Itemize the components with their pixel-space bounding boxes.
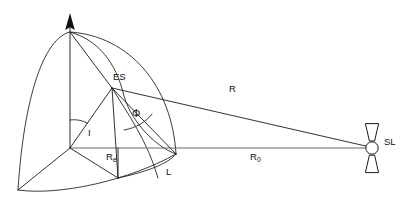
inclination-angle-arc	[70, 120, 88, 123]
satellite-upper-panel-icon	[365, 124, 378, 141]
label-limb-point: L	[166, 167, 171, 177]
center-to-es-radius-line	[70, 88, 112, 148]
geometry-diagram: ES Φ I Re L R R0 SL	[0, 0, 414, 212]
es-to-limb-line	[112, 88, 176, 154]
geometry-canvas	[0, 0, 414, 212]
label-orbit-radius-main: R	[250, 151, 257, 162]
earth-inner-meridian-arc	[112, 88, 158, 178]
earth-left-limb-arc	[18, 32, 70, 190]
center-to-southwest-radius-line	[18, 148, 70, 190]
satellite-body-icon	[366, 142, 378, 154]
label-satellite: SL	[384, 137, 396, 147]
label-central-angle-phi: Φ	[132, 108, 140, 119]
label-earth-station: ES	[113, 72, 126, 82]
es-to-equator-chord-line	[112, 88, 118, 178]
label-earth-radius: Re	[106, 152, 117, 162]
label-slant-range: R	[229, 84, 236, 94]
satellite-lower-panel-icon	[365, 155, 378, 172]
earth-bottom-rim-arc	[18, 154, 176, 191]
label-orbit-radius: R0	[250, 152, 261, 162]
label-earth-radius-main: R	[106, 151, 113, 162]
label-orbit-radius-subscript: 0	[257, 156, 261, 163]
label-inclination-angle: I	[88, 128, 91, 138]
label-earth-radius-subscript: e	[113, 156, 117, 163]
